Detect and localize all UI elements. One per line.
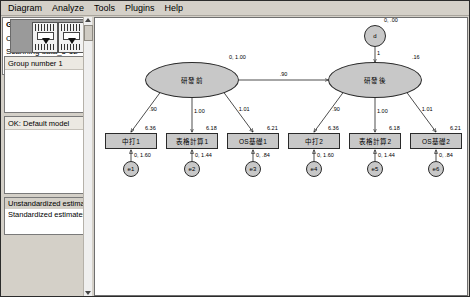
error-node-e2[interactable]: e2 — [184, 161, 200, 177]
menu-item-help[interactable]: Help — [160, 2, 189, 15]
menu-item-analyze[interactable]: Analyze — [47, 2, 89, 15]
indicator-node-表格計算2[interactable]: 表格計算2 — [349, 133, 401, 149]
loading-label-OS基礎1: 1.01 — [239, 106, 250, 112]
intercept-label-表格計算1: 6.18 — [206, 125, 217, 131]
error-param-e1: 0, 1.60 — [134, 152, 151, 158]
indicator-node-中打1[interactable]: 中打1 — [105, 133, 157, 149]
thumbnail-bars-icon — [35, 24, 54, 31]
thumbnail-model-a[interactable] — [32, 22, 58, 53]
error-node-e5[interactable]: e5 — [367, 161, 383, 177]
model-panel-body — [5, 130, 89, 134]
node-label: e6 — [432, 166, 439, 173]
model-panel-header[interactable]: OK: Default model — [5, 117, 89, 130]
intercept-label-OS基礎1: 6.21 — [267, 125, 278, 131]
node-label: 表格計算1 — [176, 138, 209, 145]
amos-graphics-window: Diagram Analyze Tools Plugins Help Group… — [0, 0, 470, 297]
indicator-node-OS基礎1[interactable]: OS基礎1 — [227, 133, 279, 149]
menu-item-tools[interactable]: Tools — [89, 2, 120, 15]
loading-label-表格計算2: 1.00 — [377, 108, 388, 114]
error-param-e4: 0, 1.60 — [317, 152, 334, 158]
scroll-down-icon[interactable] — [85, 291, 91, 295]
latent-node-F1[interactable]: 研發前 — [145, 62, 239, 98]
node-label: 中打2 — [305, 138, 323, 145]
error-node-e6[interactable]: e6 — [428, 161, 444, 177]
loading-label-中打2: .90 — [332, 106, 340, 112]
node-label: d — [373, 33, 377, 40]
node-label: e3 — [249, 166, 256, 173]
error-node-e1[interactable]: e1 — [123, 161, 139, 177]
node-label: 表格計算2 — [359, 138, 392, 145]
intercept-label-中打1: 6.36 — [145, 125, 156, 131]
node-label: OS基礎2 — [422, 138, 450, 145]
sidebar: Group number 1 OK: Default model Unstand… — [2, 17, 92, 296]
group-panel-body — [5, 70, 89, 74]
group-panel[interactable]: Group number 1 — [4, 56, 90, 113]
intercept-label-中打2: 6.36 — [328, 125, 339, 131]
node-label: e4 — [310, 166, 317, 173]
scroll-up-icon[interactable] — [85, 18, 91, 22]
node-label: e5 — [371, 166, 378, 173]
model-panel[interactable]: OK: Default model — [4, 116, 90, 194]
estimates-panel: Unstandardized estimates Standardized es… — [4, 197, 90, 235]
node-label: e2 — [188, 166, 195, 173]
intercept-label-表格計算2: 6.18 — [389, 125, 400, 131]
node-label: OS基礎1 — [239, 138, 267, 145]
path-diagram: 研發前0, 1.00研發後.16d0, .001.90中打1.906.36e10… — [95, 18, 467, 295]
error-param-e6: 0, .84 — [439, 152, 453, 158]
menu-item-diagram[interactable]: Diagram — [3, 2, 47, 15]
scroll-thumb[interactable] — [84, 25, 93, 41]
node-label: 研發後 — [364, 77, 386, 84]
node-label: 研發前 — [181, 77, 203, 84]
menu-item-plugins[interactable]: Plugins — [120, 2, 160, 15]
thumbnail-bars2-icon — [35, 44, 54, 50]
node-label: 中打1 — [122, 138, 140, 145]
latent-node-F2[interactable]: 研發後 — [328, 62, 422, 98]
thumbnail-model-b[interactable] — [58, 22, 84, 53]
latent-param-F1: 0, 1.00 — [229, 54, 246, 60]
thumbnail-bars2-icon — [61, 44, 80, 50]
intercept-label-OS基礎2: 6.21 — [450, 125, 461, 131]
loading-label-OS基礎2: 1.01 — [422, 106, 433, 112]
path-diagram-canvas[interactable]: 研發前0, 1.00研發後.16d0, .001.90中打1.906.36e10… — [94, 17, 468, 296]
indicator-node-中打2[interactable]: 中打2 — [288, 133, 340, 149]
group-panel-header[interactable]: Group number 1 — [5, 57, 89, 70]
error-node-e4[interactable]: e4 — [306, 161, 322, 177]
menu-bar: Diagram Analyze Tools Plugins Help — [1, 1, 469, 16]
loading-label-中打1: .90 — [149, 106, 157, 112]
log-scrollbar[interactable] — [83, 17, 92, 296]
error-node-e3[interactable]: e3 — [245, 161, 261, 177]
edge-loading-OS基礎1[interactable] — [224, 92, 253, 132]
node-label: e1 — [127, 166, 134, 173]
disturbance-param: 0, .00 — [384, 17, 398, 23]
estimates-option-unstandardized[interactable]: Unstandardized estimates — [5, 198, 89, 209]
error-param-e2: 0, 1.44 — [195, 152, 212, 158]
indicator-node-OS基礎2[interactable]: OS基礎2 — [410, 133, 462, 149]
disturbance-node-d[interactable]: d — [364, 25, 386, 47]
error-param-e5: 0, 1.44 — [378, 152, 395, 158]
indicator-node-表格計算1[interactable]: 表格計算1 — [166, 133, 218, 149]
edge-loading-OS基礎2[interactable] — [407, 92, 436, 132]
disturbance-arrow-label: 1 — [377, 50, 380, 56]
structural-path-label: .90 — [280, 71, 288, 77]
estimates-option-standardized[interactable]: Standardized estimates — [5, 209, 89, 220]
thumbnail-bars-icon — [61, 24, 80, 31]
error-param-e3: 0, .84 — [256, 152, 270, 158]
loading-label-表格計算1: 1.00 — [194, 108, 205, 114]
latent-param-F2: .16 — [412, 54, 420, 60]
model-thumbnail-palette[interactable] — [10, 19, 88, 53]
